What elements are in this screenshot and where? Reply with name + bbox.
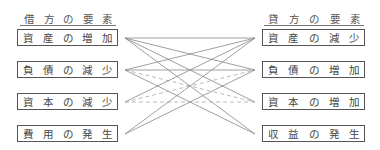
char: の: [309, 94, 319, 109]
char: 資: [23, 30, 33, 45]
char: 収: [268, 126, 278, 141]
char: 少: [102, 62, 112, 77]
char: 発: [329, 126, 339, 141]
char: の: [309, 30, 319, 45]
char: 発: [82, 126, 92, 141]
char: の: [63, 94, 73, 109]
credit-item-asset-decrease: 資 産 の 減 少: [262, 29, 365, 46]
credit-item-revenue-occurrence: 収 益 の 発 生: [262, 125, 365, 142]
char: の: [309, 62, 319, 77]
credit-item-capital-increase: 資 本 の 増 加: [262, 93, 365, 110]
char: 少: [349, 30, 359, 45]
char: 増: [329, 62, 339, 77]
char: 資: [268, 30, 278, 45]
char: 用: [43, 126, 53, 141]
char: 本: [43, 94, 53, 109]
char: 少: [102, 94, 112, 109]
char: 費: [23, 126, 33, 141]
debit-item-capital-decrease: 資 本 の 減 少: [17, 93, 118, 110]
char: の: [309, 126, 319, 141]
char: 負: [23, 62, 33, 77]
char: 資: [23, 94, 33, 109]
char: 加: [102, 30, 112, 45]
char: 増: [329, 94, 339, 109]
char: 負: [268, 62, 278, 77]
char: 加: [349, 62, 359, 77]
char: 債: [288, 62, 298, 77]
credit-item-liability-increase: 負 債 の 増 加: [262, 61, 365, 78]
char: 減: [82, 62, 92, 77]
char: 資: [268, 94, 278, 109]
char: 減: [329, 30, 339, 45]
char: 本: [288, 94, 298, 109]
debit-item-expense-occurrence: 費 用 の 発 生: [17, 125, 118, 142]
char: の: [63, 30, 73, 45]
char: 減: [82, 94, 92, 109]
char: 産: [288, 30, 298, 45]
char: 生: [102, 126, 112, 141]
char: の: [63, 126, 73, 141]
char: の: [63, 62, 73, 77]
char: 増: [82, 30, 92, 45]
char: 生: [349, 126, 359, 141]
debit-item-liability-decrease: 負 債 の 減 少: [17, 61, 118, 78]
char: 加: [349, 94, 359, 109]
char: 産: [43, 30, 53, 45]
char: 益: [288, 126, 298, 141]
debit-item-asset-increase: 資 産 の 増 加: [17, 29, 118, 46]
char: 債: [43, 62, 53, 77]
